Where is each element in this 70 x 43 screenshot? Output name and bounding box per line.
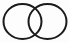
canvas-background [0,0,70,43]
figure-canvas [0,0,70,43]
overlapping-circles-graphic [0,0,70,43]
